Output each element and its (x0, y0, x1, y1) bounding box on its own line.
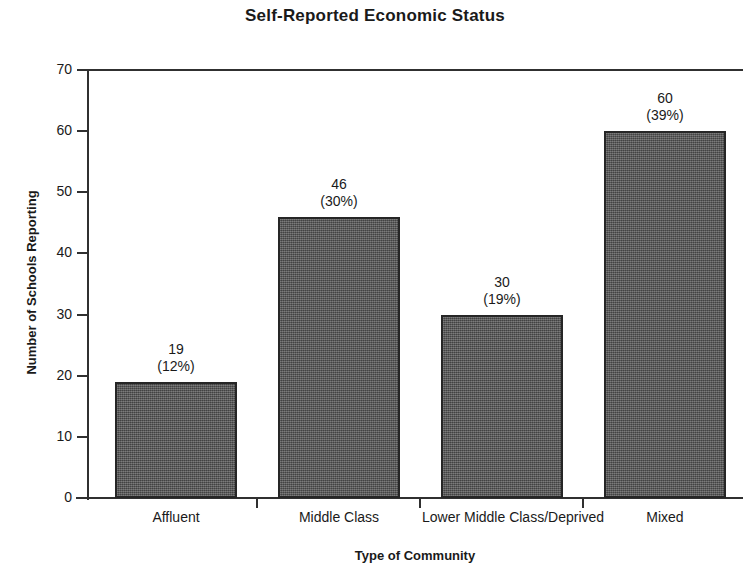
bar-lower-middle-class-deprived (441, 315, 563, 498)
bar-label-affluent: 19 (12%) (115, 341, 237, 375)
y-tick-50 (77, 191, 88, 193)
y-label-20: 20 (14, 367, 72, 383)
y-label-70: 70 (14, 61, 72, 77)
y-tick-60 (77, 130, 88, 132)
y-label-10: 10 (14, 428, 72, 444)
y-tick-30 (77, 314, 88, 316)
chart-title: Self-Reported Economic Status (0, 6, 750, 26)
y-label-30: 30 (14, 306, 72, 322)
bar-percent-mixed: (39%) (604, 107, 726, 124)
y-tick-40 (77, 252, 88, 254)
bar-percent-lower-middle-class-deprived: (19%) (441, 291, 563, 308)
x-tick-2 (419, 499, 421, 508)
bar-label-lower-middle-class-deprived: 30 (19%) (441, 274, 563, 308)
y-label-0: 0 (14, 489, 72, 505)
y-tick-10 (77, 436, 88, 438)
bar-middle-class (278, 217, 400, 498)
y-tick-0 (77, 497, 88, 499)
bar-percent-middle-class: (30%) (278, 193, 400, 210)
y-tick-20 (77, 375, 88, 377)
bar-label-mixed: 60 (39%) (604, 90, 726, 124)
x-axis-title: Type of Community (88, 548, 742, 563)
bar-label-middle-class: 46 (30%) (278, 176, 400, 210)
bar-value-mixed: 60 (604, 90, 726, 107)
x-category-label-middle-class: Middle Class (269, 509, 409, 525)
y-label-40: 40 (14, 244, 72, 260)
y-label-60: 60 (14, 122, 72, 138)
bar-value-middle-class: 46 (278, 176, 400, 193)
bar-mixed (604, 131, 726, 498)
x-category-label-affluent: Affluent (106, 509, 246, 525)
bar-value-lower-middle-class-deprived: 30 (441, 274, 563, 291)
x-category-label-lower-middle-class-deprived: Lower Middle Class/Deprived (422, 509, 582, 525)
y-label-50: 50 (14, 183, 72, 199)
bar-value-affluent: 19 (115, 341, 237, 358)
x-tick-3 (582, 499, 584, 508)
y-tick-70 (77, 69, 88, 71)
bar-affluent (115, 382, 237, 498)
plot-top-border (88, 69, 743, 71)
x-tick-1 (256, 499, 258, 508)
y-axis-labels: 70 60 50 40 30 20 10 0 (0, 0, 72, 576)
bar-percent-affluent: (12%) (115, 358, 237, 375)
chart-figure: Self-Reported Economic Status Number of … (0, 0, 750, 576)
x-category-label-mixed: Mixed (595, 509, 735, 525)
